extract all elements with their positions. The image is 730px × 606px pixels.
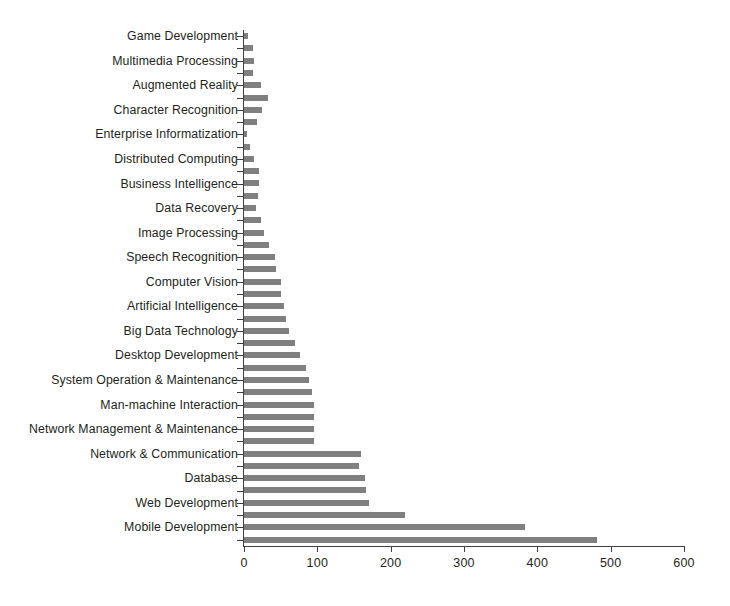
y-axis-tick <box>237 491 243 492</box>
bar-row <box>244 349 684 361</box>
y-axis-tick <box>237 61 243 62</box>
bar <box>244 144 250 150</box>
bar-row <box>244 276 684 288</box>
bar-row <box>244 472 684 484</box>
x-axis-tick-label: 500 <box>600 556 621 570</box>
x-axis-tick-label: 400 <box>527 556 548 570</box>
category-label: Network & Communication <box>11 448 243 460</box>
bar <box>244 242 269 248</box>
y-axis-tick <box>237 122 243 123</box>
bar <box>244 340 295 346</box>
bar <box>244 426 314 432</box>
bar <box>244 107 262 113</box>
bar-row <box>244 448 684 460</box>
bar-row <box>244 91 684 103</box>
category-label: Image Processing <box>11 227 243 239</box>
x-axis-tick <box>684 546 685 552</box>
x-axis-tick-label: 200 <box>380 556 401 570</box>
y-axis-tick <box>237 343 243 344</box>
bar-row <box>244 288 684 300</box>
x-axis-tick <box>611 546 612 552</box>
y-axis-tick <box>237 355 243 356</box>
y-axis-tick <box>237 540 243 541</box>
y-axis-tick <box>237 233 243 234</box>
bar <box>244 328 289 334</box>
category-label: Desktop Development <box>11 349 243 361</box>
y-axis-line <box>243 30 244 547</box>
category-label: System Operation & Maintenance <box>11 374 243 386</box>
category-label: Man-machine Interaction <box>11 399 243 411</box>
category-axis-labels: Game DevelopmentMultimedia ProcessingAug… <box>0 0 243 606</box>
y-axis-tick <box>237 147 243 148</box>
bar <box>244 193 258 199</box>
category-label: Artificial Intelligence <box>11 300 243 312</box>
y-axis-tick <box>237 527 243 528</box>
bar-row <box>244 374 684 386</box>
bar <box>244 82 261 88</box>
bar <box>244 119 257 125</box>
x-axis-tick <box>464 546 465 552</box>
bar <box>244 33 248 39</box>
bar-row <box>244 104 684 116</box>
bar <box>244 303 284 309</box>
y-axis-tick <box>237 417 243 418</box>
bar <box>244 365 306 371</box>
y-axis-tick <box>237 331 243 332</box>
bar-row <box>244 325 684 337</box>
bar-row <box>244 67 684 79</box>
bar-row <box>244 460 684 472</box>
category-label: Multimedia Processing <box>11 55 243 67</box>
category-label: Computer Vision <box>11 276 243 288</box>
category-label: Augmented Reality <box>11 79 243 91</box>
bar <box>244 205 256 211</box>
bar <box>244 131 247 137</box>
y-axis-tick <box>237 184 243 185</box>
bar <box>244 451 361 457</box>
y-axis-tick <box>237 405 243 406</box>
y-axis-tick <box>237 380 243 381</box>
bar-row <box>244 263 684 275</box>
y-axis-tick <box>237 245 243 246</box>
bar <box>244 512 405 518</box>
bar-row <box>244 153 684 165</box>
y-axis-tick <box>237 441 243 442</box>
bar-row <box>244 214 684 226</box>
y-axis-tick <box>237 306 243 307</box>
category-label: Data Recovery <box>11 202 243 214</box>
y-axis-tick <box>237 134 243 135</box>
y-axis-tick <box>237 257 243 258</box>
y-axis-tick <box>237 73 243 74</box>
category-label: Web Development <box>11 497 243 509</box>
y-axis-tick <box>237 208 243 209</box>
y-axis-tick <box>237 269 243 270</box>
y-axis-tick <box>237 319 243 320</box>
y-axis-tick <box>237 85 243 86</box>
bar <box>244 352 300 358</box>
bar-row <box>244 398 684 410</box>
y-axis-tick <box>237 454 243 455</box>
y-axis-tick <box>237 478 243 479</box>
category-label: Database <box>11 472 243 484</box>
bar <box>244 168 259 174</box>
y-axis-tick <box>237 98 243 99</box>
bar-row <box>244 128 684 140</box>
bar-row <box>244 435 684 447</box>
bar-row <box>244 165 684 177</box>
category-label: Business Intelligence <box>11 178 243 190</box>
bar <box>244 254 275 260</box>
y-axis-tick <box>237 48 243 49</box>
y-axis-tick <box>237 196 243 197</box>
bar-row <box>244 497 684 509</box>
category-label: Character Recognition <box>11 104 243 116</box>
bar-row <box>244 362 684 374</box>
bar <box>244 58 254 64</box>
x-axis-tick-label: 300 <box>453 556 474 570</box>
bar <box>244 291 281 297</box>
bar <box>244 414 314 420</box>
bar <box>244 463 359 469</box>
category-label: Distributed Computing <box>11 153 243 165</box>
bar-row <box>244 312 684 324</box>
plot-area <box>244 30 684 550</box>
bar <box>244 266 276 272</box>
y-axis-tick <box>237 515 243 516</box>
